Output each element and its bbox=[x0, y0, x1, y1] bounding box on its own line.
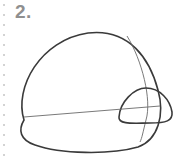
vertical-guide-curve bbox=[127, 36, 148, 142]
sketch-drawing bbox=[0, 0, 177, 157]
horizontal-guide-line bbox=[24, 106, 160, 117]
small-dome-outline bbox=[119, 88, 172, 123]
large-dome-outline bbox=[21, 32, 161, 152]
